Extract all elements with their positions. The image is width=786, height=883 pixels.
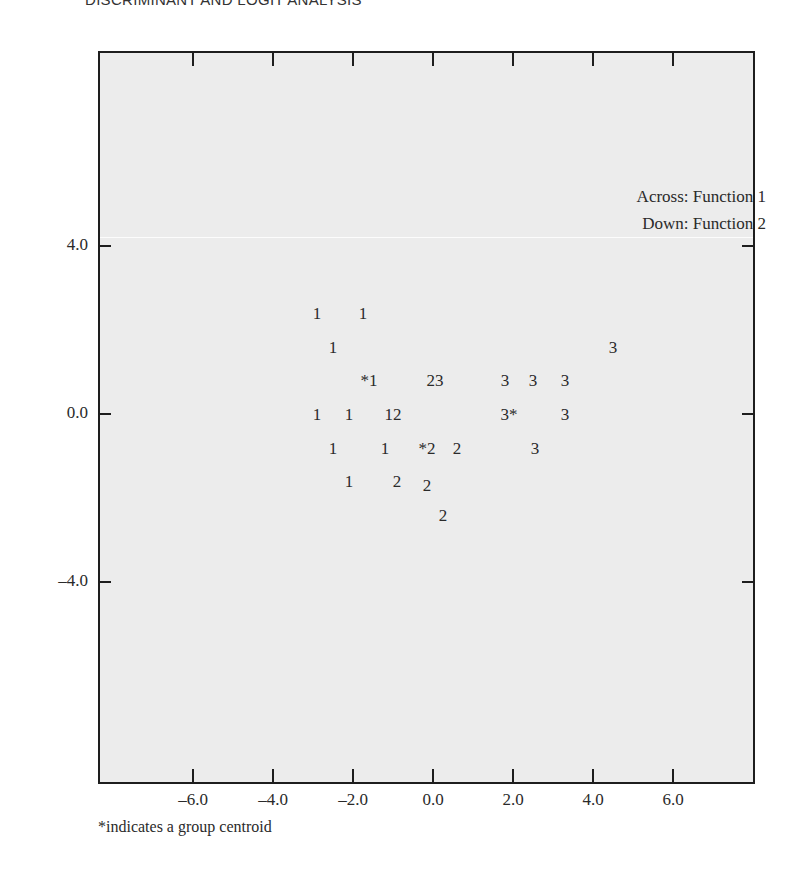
data-point: 1 <box>359 305 368 322</box>
x-tick-top <box>352 53 354 66</box>
x-tick-bottom <box>512 769 514 782</box>
footnote: *indicates a group centroid <box>98 818 272 836</box>
x-tick-label: 4.0 <box>563 790 623 810</box>
x-tick-label: –4.0 <box>243 790 303 810</box>
data-point: 2 <box>453 439 462 456</box>
legend-across: Across: Function 1 <box>570 183 766 210</box>
scatter-plot-area: Across: Function 1 Down: Function 2 111*… <box>98 51 755 784</box>
x-tick-bottom <box>432 769 434 782</box>
data-point: 1 <box>329 338 338 355</box>
x-tick-label: 2.0 <box>483 790 543 810</box>
data-point: 3 <box>561 406 570 423</box>
data-point: 3 <box>561 372 570 389</box>
group-centroid-point: *1 <box>361 372 378 389</box>
data-point: 3 <box>529 372 538 389</box>
x-tick-top <box>512 53 514 66</box>
data-point: 2 <box>423 477 432 494</box>
data-point: 1 <box>345 473 354 490</box>
legend-down: Down: Function 2 <box>570 210 766 237</box>
data-point: 3 <box>501 372 510 389</box>
group-centroid-point: 3* <box>501 406 518 423</box>
data-point: 23 <box>427 372 444 389</box>
data-point: 12 <box>385 406 402 423</box>
y-tick-left <box>100 245 111 247</box>
data-point: 3 <box>531 439 540 456</box>
x-tick-label: 0.0 <box>403 790 463 810</box>
x-tick-bottom <box>272 769 274 782</box>
x-tick-top <box>272 53 274 66</box>
y-tick-right <box>742 413 753 415</box>
y-tick-left <box>100 413 111 415</box>
group-centroid-point: *2 <box>419 439 436 456</box>
x-tick-top <box>592 53 594 66</box>
x-tick-label: –6.0 <box>163 790 223 810</box>
scan-artifact-line <box>100 237 753 238</box>
y-tick-right <box>742 245 753 247</box>
y-tick-right <box>742 581 753 583</box>
y-tick-label: –4.0 <box>28 571 88 591</box>
data-point: 3 <box>609 338 618 355</box>
x-tick-top <box>192 53 194 66</box>
y-tick-label: 4.0 <box>28 235 88 255</box>
x-tick-top <box>432 53 434 66</box>
x-tick-bottom <box>592 769 594 782</box>
data-point: 1 <box>313 406 322 423</box>
data-point: 1 <box>381 439 390 456</box>
data-point: 2 <box>393 473 402 490</box>
x-tick-bottom <box>672 769 674 782</box>
axis-legend: Across: Function 1 Down: Function 2 <box>570 183 766 237</box>
data-point: 1 <box>313 305 322 322</box>
data-point: 2 <box>439 506 448 523</box>
x-tick-bottom <box>192 769 194 782</box>
data-point: 1 <box>345 406 354 423</box>
page-header: DISCRIMINANT AND LOGIT ANALYSIS <box>85 0 362 8</box>
y-tick-label: 0.0 <box>28 403 88 423</box>
x-tick-bottom <box>352 769 354 782</box>
data-point: 1 <box>329 439 338 456</box>
y-tick-left <box>100 581 111 583</box>
x-tick-label: –2.0 <box>323 790 383 810</box>
x-tick-top <box>672 53 674 66</box>
x-tick-label: 6.0 <box>643 790 703 810</box>
